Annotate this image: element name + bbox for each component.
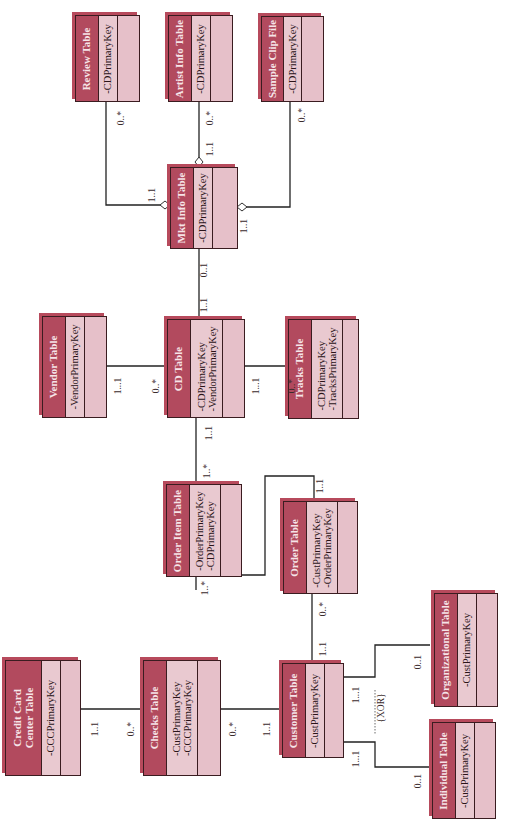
multiplicity-label: 1..1 bbox=[90, 722, 100, 736]
table-operations bbox=[221, 485, 241, 576]
table-attributes: -CustPrimaryKey-CCCPrimaryKey bbox=[167, 661, 198, 775]
multiplicity-label: 1..1 bbox=[315, 479, 325, 493]
table-tracks[interactable]: Tracks Table -CDPrimaryKey-TracksPrimary… bbox=[288, 319, 359, 419]
table-title: Artist Info Table bbox=[173, 19, 185, 97]
table-title: Individual Table bbox=[437, 732, 449, 809]
table-attributes: -OrderPrimaryKey-CDPrimaryKey bbox=[190, 485, 221, 576]
multiplicity-label: 1..1 bbox=[147, 188, 157, 202]
attribute: -CustPrimaryKey bbox=[171, 680, 182, 756]
table-operations bbox=[338, 502, 357, 593]
table-title: CD Table bbox=[172, 346, 184, 390]
line-mkt-sampleclip bbox=[245, 100, 290, 207]
table-individual[interactable]: Individual Table -CustPrimaryKey bbox=[432, 722, 496, 819]
uml-diagram-canvas: Credit CardCenter Table -CCCPrimaryKey C… bbox=[0, 0, 511, 822]
multiplicity-label: 1..1 bbox=[205, 142, 215, 156]
multiplicity-label: 0..* bbox=[228, 722, 238, 736]
table-checks[interactable]: Checks Table -CustPrimaryKey-CCCPrimaryK… bbox=[143, 660, 221, 776]
attribute: -CDPrimaryKey bbox=[195, 24, 206, 93]
attribute: -OrderPrimaryKey bbox=[322, 508, 333, 587]
attribute: -CDPrimaryKey bbox=[316, 327, 327, 410]
multiplicity-label: 0..1 bbox=[413, 774, 423, 788]
table-mkt-info[interactable]: Mkt Info Table -CDPrimaryKey bbox=[170, 167, 238, 249]
multiplicity-label: 0..* bbox=[126, 722, 136, 736]
table-header: Mkt Info Table bbox=[171, 168, 194, 248]
table-review[interactable]: Review Table -CDPrimaryKey bbox=[75, 15, 140, 102]
aggregation-diamond-review bbox=[160, 201, 170, 209]
table-header: Organizational Table bbox=[435, 594, 458, 706]
aggregation-diamond-sampleclip bbox=[237, 203, 247, 211]
attribute: -VendorPrimaryKey bbox=[207, 326, 218, 411]
multiplicity-label: 1...1 bbox=[351, 751, 361, 768]
table-sample-clip-file[interactable]: Sample Clip File -CDPrimaryKey bbox=[261, 16, 324, 102]
table-operations bbox=[211, 16, 232, 101]
table-attributes: -CustPrimaryKey-OrderPrimaryKey bbox=[307, 502, 338, 593]
multiplicity-label: 0..* bbox=[297, 108, 307, 122]
multiplicity-label: 1..1 bbox=[199, 298, 209, 312]
multiplicity-label: 0..* bbox=[205, 111, 215, 125]
table-title: Sample Clip File bbox=[266, 20, 278, 98]
table-title: Order Table bbox=[288, 519, 300, 577]
table-organizational[interactable]: Organizational Table -CustPrimaryKey bbox=[434, 593, 498, 707]
attribute: -CDPrimaryKey bbox=[287, 24, 298, 93]
table-cd[interactable]: CD Table -CDPrimaryKey-VendorPrimaryKey bbox=[167, 319, 245, 418]
table-header: Tracks Table bbox=[289, 320, 312, 418]
table-attributes: -CustPrimaryKey bbox=[456, 723, 475, 818]
table-title: Checks Table bbox=[148, 687, 160, 750]
table-header: Individual Table bbox=[433, 723, 456, 818]
table-header: Artist Info Table bbox=[169, 16, 192, 101]
table-attributes: -CustPrimaryKey bbox=[306, 664, 325, 757]
table-header: Order Table bbox=[284, 502, 307, 593]
multiplicity-label: 0..1 bbox=[199, 263, 209, 277]
multiplicity-label: 1...1 bbox=[251, 378, 261, 395]
attribute: -CCCPrimaryKey bbox=[182, 680, 193, 756]
table-operations bbox=[343, 320, 358, 418]
attribute: -CDPrimaryKey bbox=[195, 326, 206, 411]
multiplicity-label: 0..* bbox=[287, 379, 297, 393]
table-credit-card-center[interactable]: Credit CardCenter Table -CCCPrimaryKey bbox=[5, 660, 81, 776]
table-operations bbox=[302, 17, 323, 101]
multiplicity-label: 0..* bbox=[318, 602, 328, 616]
table-order-item[interactable]: Order Item Table -OrderPrimaryKey-CDPrim… bbox=[166, 484, 242, 577]
multiplicity-label: 1..* bbox=[200, 581, 210, 595]
multiplicity-label: 0..1 bbox=[413, 655, 423, 669]
attribute: -OrderPrimaryKey bbox=[194, 491, 205, 570]
table-attributes: -VendorPrimaryKey bbox=[66, 317, 85, 417]
table-title: Order Item Table bbox=[171, 489, 183, 571]
table-vendor[interactable]: Vendor Table -VendorPrimaryKey bbox=[42, 316, 107, 418]
multiplicity-label: 0..* bbox=[116, 111, 126, 125]
table-operations bbox=[118, 16, 139, 101]
multiplicity-label: 1..* bbox=[202, 464, 212, 478]
table-header: Checks Table bbox=[144, 661, 167, 775]
table-attributes: -CDPrimaryKey-TracksPrimaryKey bbox=[312, 320, 343, 418]
table-attributes: -CCCPrimaryKey bbox=[42, 661, 61, 775]
table-operations bbox=[477, 594, 497, 706]
table-attributes: -CDPrimaryKey bbox=[192, 16, 211, 101]
attribute: -CDPrimaryKey bbox=[205, 491, 216, 570]
table-title: Organizational Table bbox=[439, 600, 451, 699]
table-title: Customer Table bbox=[287, 673, 299, 748]
table-attributes: -CDPrimaryKey bbox=[99, 16, 118, 101]
table-header: CD Table bbox=[168, 320, 191, 417]
table-title: Center Table bbox=[24, 688, 36, 749]
multiplicity-label: 0..* bbox=[151, 379, 161, 393]
multiplicity-label: 1..1 bbox=[204, 426, 214, 440]
table-header: Order Item Table bbox=[167, 485, 190, 576]
attribute: -CDPrimaryKey bbox=[197, 173, 208, 242]
table-header: Review Table bbox=[76, 16, 99, 101]
table-order[interactable]: Order Table -CustPrimaryKey-OrderPrimary… bbox=[283, 501, 358, 594]
table-operations bbox=[61, 661, 80, 775]
multiplicity-label: 1..1 bbox=[318, 642, 328, 656]
attribute: -CustPrimaryKey bbox=[309, 673, 320, 747]
table-header: Credit CardCenter Table bbox=[6, 661, 42, 775]
aggregation-diamond-artist bbox=[195, 157, 203, 167]
table-header: Sample Clip File bbox=[262, 17, 284, 101]
attribute: -CCCPrimaryKey bbox=[45, 680, 56, 756]
table-header: Customer Table bbox=[283, 664, 306, 757]
table-header: Vendor Table bbox=[43, 317, 66, 417]
attribute: -TracksPrimaryKey bbox=[327, 327, 338, 410]
xor-constraint-label: {XOR} bbox=[376, 693, 386, 722]
table-customer[interactable]: Customer Table -CustPrimaryKey bbox=[282, 663, 344, 758]
table-title: Review Table bbox=[80, 27, 92, 90]
table-operations bbox=[325, 664, 343, 757]
table-artist-info[interactable]: Artist Info Table -CDPrimaryKey bbox=[168, 15, 233, 102]
